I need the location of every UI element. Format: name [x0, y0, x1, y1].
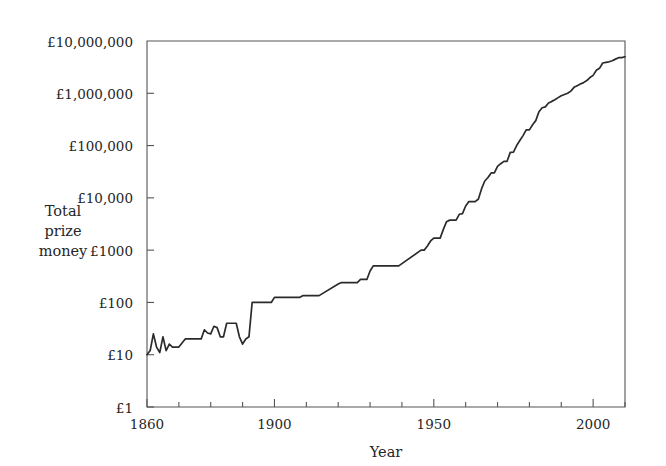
x-tick-label: 2000 — [576, 416, 610, 432]
x-tick-label: 1860 — [130, 416, 164, 432]
y-tick-label: £1,000,000 — [56, 86, 133, 102]
prize-money-chart: £10,000,000£1,000,000£100,000£10,000£100… — [0, 0, 666, 466]
y-tick-label: £10,000 — [77, 190, 133, 206]
chart-background — [0, 0, 666, 466]
y-tick-label: £100,000 — [69, 138, 133, 154]
chart-canvas: £10,000,000£1,000,000£100,000£10,000£100… — [0, 0, 666, 466]
y-tick-label: £1 — [116, 400, 133, 416]
y-tick-label: £10 — [107, 347, 133, 363]
y-axis-title-line: Total — [45, 203, 82, 219]
y-tick-label: £10,000,000 — [47, 34, 133, 50]
x-tick-label: 1950 — [417, 416, 451, 432]
y-tick-label: £1000 — [90, 243, 133, 259]
y-tick-label: £100 — [99, 295, 133, 311]
y-axis-title-line: prize — [44, 223, 81, 239]
x-axis-title: Year — [369, 444, 403, 460]
y-axis-title-line: money — [39, 243, 88, 259]
x-tick-label: 1900 — [257, 416, 291, 432]
